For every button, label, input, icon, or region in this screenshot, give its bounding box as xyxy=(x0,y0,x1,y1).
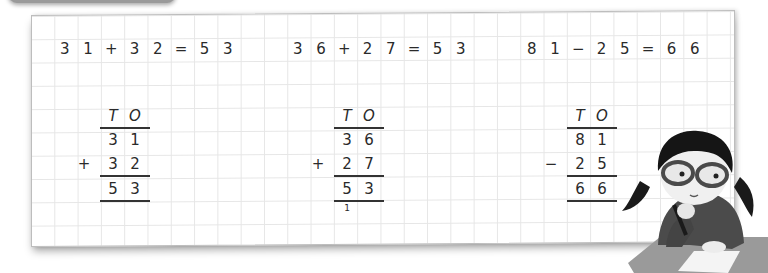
equation-1: 3 1 + 3 2 = 5 3 xyxy=(53,37,239,61)
eq-token: 6 xyxy=(660,40,683,58)
operator: + xyxy=(74,155,94,173)
top-tab-shadow xyxy=(8,0,176,3)
rule-line xyxy=(334,200,384,202)
eq-token: 3 xyxy=(216,40,239,58)
eq-token: 7 xyxy=(379,40,402,58)
rule-line xyxy=(100,200,150,202)
eq-token: 8 xyxy=(520,40,543,58)
bottom-number: + 2 7 xyxy=(336,152,384,175)
column-header: T O xyxy=(336,104,384,127)
digit: 3 xyxy=(358,180,380,198)
eq-token: 1 xyxy=(76,40,99,58)
eq-token: 2 xyxy=(146,40,169,58)
result-number: 6 6 xyxy=(569,177,617,200)
eq-token: 3 xyxy=(286,40,309,58)
result-number: 5 3 xyxy=(102,177,150,200)
carry-digit: 1 xyxy=(336,203,358,213)
result-number: 5 3 xyxy=(336,177,384,200)
equation-3: 8 1 − 2 5 = 6 6 xyxy=(520,37,706,61)
eq-token: 5 xyxy=(426,40,449,58)
ones-header: O xyxy=(358,107,380,125)
column-method-1: T O 3 1 + 3 2 5 3 xyxy=(102,104,150,202)
girl-thinking-illustration xyxy=(620,125,768,273)
digit: 6 xyxy=(591,180,613,198)
digit: 3 xyxy=(336,131,358,149)
digit: 3 xyxy=(102,131,124,149)
digit: 6 xyxy=(358,131,380,149)
glasses-icon xyxy=(663,162,693,184)
eq-token: 6 xyxy=(683,40,706,58)
eq-token: + xyxy=(333,40,356,58)
eq-token: = xyxy=(169,40,192,58)
eq-token: 3 xyxy=(123,40,146,58)
eq-token: 1 xyxy=(543,40,566,58)
rule-line xyxy=(567,200,617,202)
tens-header: T xyxy=(569,107,591,125)
eq-token: 3 xyxy=(449,40,472,58)
eq-token: 5 xyxy=(613,40,636,58)
tens-header: T xyxy=(336,107,358,125)
equation-2: 3 6 + 2 7 = 5 3 xyxy=(286,37,472,61)
ones-header: O xyxy=(124,107,146,125)
eq-token: 2 xyxy=(356,40,379,58)
column-header: T O xyxy=(102,104,150,127)
eq-token: 3 xyxy=(53,40,76,58)
operator: − xyxy=(541,155,561,173)
digit: 5 xyxy=(102,180,124,198)
eq-token: = xyxy=(636,40,659,58)
digit: 1 xyxy=(591,131,613,149)
digit: 7 xyxy=(358,155,380,173)
top-number: 8 1 xyxy=(569,129,617,152)
digit: 8 xyxy=(569,131,591,149)
eq-token: = xyxy=(402,40,425,58)
digit: 2 xyxy=(569,155,591,173)
bottom-number: + 3 2 xyxy=(102,152,150,175)
tens-header: T xyxy=(102,107,124,125)
column-method-3: T O 8 1 − 2 5 6 6 xyxy=(569,104,617,202)
eq-token: + xyxy=(100,40,123,58)
digit: 6 xyxy=(569,180,591,198)
eq-token: 5 xyxy=(193,40,216,58)
ones-header: O xyxy=(591,107,613,125)
digit: 5 xyxy=(591,155,613,173)
digit: 5 xyxy=(336,180,358,198)
eq-token: − xyxy=(567,40,590,58)
digit: 2 xyxy=(336,155,358,173)
top-number: 3 1 xyxy=(102,129,150,152)
top-number: 3 6 xyxy=(336,129,384,152)
eq-token: 2 xyxy=(590,40,613,58)
bottom-number: − 2 5 xyxy=(569,152,617,175)
column-header: T O xyxy=(569,104,617,127)
column-method-2: T O 3 6 + 2 7 5 3 1 xyxy=(336,104,384,213)
eq-token: 6 xyxy=(309,40,332,58)
digit: 2 xyxy=(124,155,146,173)
digit: 3 xyxy=(102,155,124,173)
digit: 1 xyxy=(124,131,146,149)
operator: + xyxy=(308,155,328,173)
digit: 3 xyxy=(124,180,146,198)
